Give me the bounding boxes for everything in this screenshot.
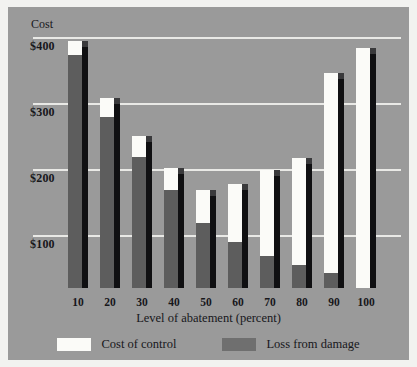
x-tick-60: 60 [223, 296, 253, 308]
bar-side-top-30 [146, 136, 152, 142]
bar-side-top-70 [274, 170, 280, 176]
x-tick-100: 100 [351, 296, 381, 308]
bar-side-70 [274, 176, 280, 288]
bar-segment-loss-from-damage-20 [100, 117, 114, 288]
x-tick-40: 40 [159, 296, 189, 308]
bar-side-100 [370, 54, 376, 288]
bar-front-100 [356, 48, 370, 288]
bar-front-60 [228, 184, 242, 288]
bar-front-40 [164, 168, 178, 288]
x-tick-10: 10 [63, 296, 93, 308]
bar-segment-loss-from-damage-90 [324, 273, 338, 288]
bar-side-40 [178, 174, 184, 288]
x-tick-70: 70 [255, 296, 285, 308]
bar-side-top-100 [370, 48, 376, 54]
bar-front-50 [196, 190, 210, 288]
chart-legend: Cost of control Loss from damage [8, 337, 409, 352]
chart-container: Cost $400 $300 $200 $100 [0, 0, 417, 367]
chart-plot-area: Cost $400 $300 $200 $100 [8, 7, 409, 360]
bar-front-20 [100, 98, 114, 288]
legend-swatch-gray-icon [222, 338, 256, 351]
bar-segment-loss-from-damage-30 [132, 157, 146, 288]
legend-label-cost-of-control: Cost of control [101, 337, 176, 352]
bar-side-20 [114, 104, 120, 288]
bar-segment-cost-of-control-90 [324, 73, 338, 273]
bar-side-top-80 [306, 158, 312, 164]
bar-side-top-20 [114, 98, 120, 104]
legend-label-loss-from-damage: Loss from damage [266, 337, 359, 352]
bar-front-90 [324, 73, 338, 288]
bar-segment-loss-from-damage-50 [196, 223, 210, 288]
bar-side-90 [338, 79, 344, 288]
bar-segment-cost-of-control-20 [100, 98, 114, 117]
bar-segment-cost-of-control-80 [292, 158, 306, 265]
bar-segment-cost-of-control-70 [260, 170, 274, 256]
bar-side-60 [242, 190, 248, 288]
y-tick-100: $100 [30, 237, 55, 252]
bar-front-30 [132, 136, 146, 288]
bar-side-top-60 [242, 184, 248, 190]
legend-swatch-white-icon [57, 338, 91, 351]
bar-front-10 [68, 41, 82, 288]
bar-segment-loss-from-damage-10 [68, 55, 82, 288]
bar-front-80 [292, 158, 306, 288]
chart-plot: Cost $400 $300 $200 $100 [8, 7, 409, 360]
bar-side-80 [306, 164, 312, 288]
bar-segment-cost-of-control-10 [68, 41, 82, 55]
bar-segment-cost-of-control-50 [196, 190, 210, 223]
x-tick-90: 90 [319, 296, 349, 308]
gridline-200 [33, 169, 401, 171]
x-axis-title: Level of abatement (percent) [8, 311, 409, 326]
bar-segment-loss-from-damage-70 [260, 256, 274, 288]
gridline-100 [33, 235, 401, 237]
bar-segment-loss-from-damage-60 [228, 242, 242, 288]
bar-side-10 [82, 47, 88, 288]
x-tick-80: 80 [287, 296, 317, 308]
x-tick-20: 20 [95, 296, 125, 308]
legend-item-cost-of-control[interactable]: Cost of control [57, 337, 176, 352]
y-tick-400: $400 [30, 39, 55, 54]
bar-side-50 [210, 196, 216, 288]
bar-segment-cost-of-control-30 [132, 136, 146, 157]
y-tick-300: $300 [30, 105, 55, 120]
bar-segment-loss-from-damage-80 [292, 265, 306, 288]
y-tick-200: $200 [30, 171, 55, 186]
legend-item-loss-from-damage[interactable]: Loss from damage [222, 337, 359, 352]
bar-side-top-40 [178, 168, 184, 174]
bar-side-top-50 [210, 190, 216, 196]
x-tick-50: 50 [191, 296, 221, 308]
bar-segment-loss-from-damage-40 [164, 190, 178, 288]
gridline-400 [33, 37, 401, 39]
bar-side-top-90 [338, 73, 344, 79]
x-tick-30: 30 [127, 296, 157, 308]
gridline-300 [33, 103, 401, 105]
bar-side-top-10 [82, 41, 88, 47]
y-axis-title: Cost [31, 17, 53, 32]
bar-segment-cost-of-control-100 [356, 48, 370, 288]
bar-segment-cost-of-control-60 [228, 184, 242, 242]
bar-side-30 [146, 142, 152, 288]
bar-segment-cost-of-control-40 [164, 168, 178, 190]
bar-front-70 [260, 170, 274, 288]
